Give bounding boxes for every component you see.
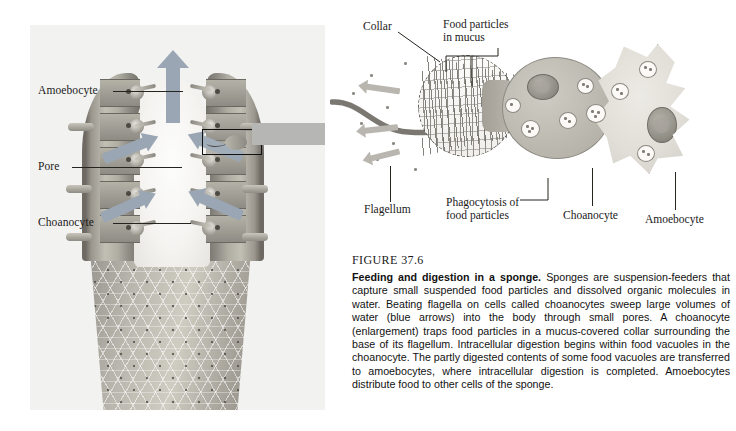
- food-particle: [386, 106, 389, 109]
- callout-choanocyte-icon: [225, 135, 247, 150]
- water-flow-arrow: [366, 84, 401, 95]
- pore-canal: [242, 185, 268, 193]
- food-vacuole: [637, 145, 655, 162]
- pore-canal: [242, 233, 268, 241]
- caption-text: Feeding and digestion in a sponge. Spong…: [352, 271, 730, 392]
- label-collar: Collar: [363, 20, 392, 32]
- leader-line-choanocyte: [113, 223, 191, 224]
- figure-number: FIGURE 37.6: [352, 253, 730, 268]
- enlargement-transition-arrow: [252, 123, 325, 145]
- food-vacuole: [639, 61, 657, 78]
- pore-canal: [68, 123, 94, 131]
- label-line-2: in mucus: [443, 31, 508, 44]
- label-pore: Pore: [38, 160, 59, 172]
- food-particle: [370, 74, 373, 77]
- label-line-1: Food particles: [443, 18, 508, 31]
- pore-canal: [66, 233, 92, 241]
- food-particle: [414, 168, 417, 171]
- figure-caption: FIGURE 37.6 Feeding and digestion in a s…: [352, 253, 730, 392]
- leader-line-pore: [72, 167, 182, 168]
- leader-line-choanocyte-right: [592, 168, 593, 206]
- leader-line-collar: [396, 30, 446, 66]
- osculum-outflow-arrow: [166, 65, 180, 123]
- label-line-1: Phagocytosis of: [446, 196, 519, 209]
- label-flagellum: Flagellum: [364, 203, 411, 215]
- choanocyte-nucleus: [527, 74, 559, 100]
- pore-canal: [66, 185, 92, 193]
- caption-title: Feeding and digestion in a sponge.: [352, 271, 541, 283]
- leader-line-phagocytosis: [518, 176, 562, 206]
- label-phagocytosis-of-food-particles: Phagocytosis of food particles: [446, 196, 519, 222]
- callout-flagellum-icon: [207, 139, 227, 147]
- food-vacuole: [521, 120, 540, 138]
- leader-line-amoebocyte-right: [675, 172, 676, 210]
- caption-body: Sponges are suspension-feeders that capt…: [352, 271, 730, 390]
- leader-line-amoebocyte: [113, 91, 183, 92]
- leader-line-flagellum: [390, 166, 391, 202]
- choanocyte-cell-row: [206, 79, 246, 107]
- figure-37-6: Amoebocyte Pore Choanocyte: [0, 0, 736, 431]
- label-amoebocyte-right: Amoebocyte: [645, 213, 704, 225]
- food-vacuole: [559, 112, 577, 129]
- food-particle: [352, 92, 355, 95]
- label-food-particles-in-mucus: Food particles in mucus: [443, 18, 508, 44]
- food-vacuole: [611, 83, 629, 100]
- food-particle: [392, 142, 395, 145]
- label-choanocyte-right: Choanocyte: [563, 209, 618, 221]
- food-vacuole: [505, 98, 521, 113]
- label-amoebocyte-left: Amoebocyte: [38, 84, 98, 96]
- choanocyte-cell-row: [100, 113, 140, 141]
- amoebocyte-cell: [592, 44, 698, 174]
- leader-bracket-food-particles: [444, 46, 504, 88]
- label-line-2: food particles: [446, 209, 519, 222]
- label-choanocyte-left: Choanocyte: [38, 216, 94, 228]
- transferred-food-vacuole: [586, 104, 606, 123]
- amoebocyte-nucleus: [647, 107, 677, 143]
- food-vacuole: [577, 78, 594, 94]
- choanocyte-cell-row: [100, 79, 140, 107]
